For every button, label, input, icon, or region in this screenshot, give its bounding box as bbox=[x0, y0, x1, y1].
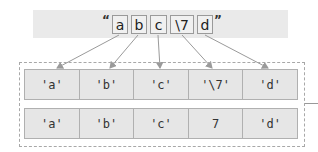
token-cell: 'a' bbox=[25, 70, 80, 99]
token-row-evaluated: 'a' 'b' 'c' 7 'd' bbox=[24, 108, 298, 139]
connector-line bbox=[305, 103, 318, 104]
token-row-raw: 'a' 'b' 'c' '\7' 'd' bbox=[24, 69, 298, 100]
token-cell: 'b' bbox=[80, 109, 135, 138]
token-cell: 'd' bbox=[243, 70, 297, 99]
token-cell: 'c' bbox=[134, 109, 189, 138]
token-cell: 'd' bbox=[243, 109, 297, 138]
token-cell: 7 bbox=[189, 109, 244, 138]
token-cell: 'b' bbox=[80, 70, 135, 99]
token-cell: 'a' bbox=[25, 109, 80, 138]
token-cell: '\7' bbox=[189, 70, 244, 99]
token-cell: 'c' bbox=[134, 70, 189, 99]
